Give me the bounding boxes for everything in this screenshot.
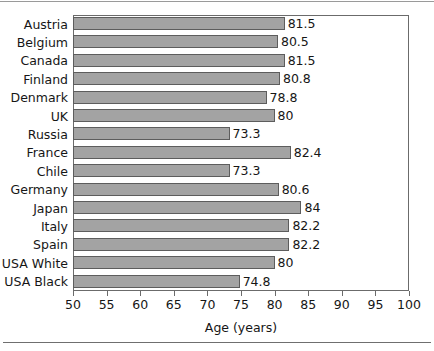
bar-canada[interactable] <box>73 54 285 67</box>
bar-row: 80.8 <box>73 70 409 88</box>
life-expectancy-bar-chart: 81.580.581.580.878.88073.382.473.380.684… <box>0 0 434 351</box>
bar-value-label: 82.2 <box>289 217 320 234</box>
x-tick <box>275 291 276 296</box>
x-tick <box>241 291 242 296</box>
category-label-usa-black: USA Black <box>4 273 68 290</box>
bar-russia[interactable] <box>73 127 230 140</box>
category-label-japan: Japan <box>33 200 68 217</box>
bar-row: 81.5 <box>73 15 409 33</box>
x-tick-label: 100 <box>389 297 429 313</box>
bar-value-label: 80 <box>275 254 294 271</box>
x-tick <box>107 291 108 296</box>
bar-row: 80 <box>73 254 409 272</box>
bar-belgium[interactable] <box>73 35 278 48</box>
x-tick <box>140 291 141 296</box>
bar-italy[interactable] <box>73 219 289 232</box>
bar-usa-white[interactable] <box>73 256 275 269</box>
bar-row: 73.3 <box>73 125 409 143</box>
bar-row: 82.4 <box>73 144 409 162</box>
bar-value-label: 82.2 <box>289 236 320 253</box>
bar-row: 82.2 <box>73 217 409 235</box>
bar-austria[interactable] <box>73 17 285 30</box>
x-tick <box>73 291 74 296</box>
bar-row: 80 <box>73 107 409 125</box>
bar-row: 74.8 <box>73 273 409 291</box>
bar-value-label: 78.8 <box>267 89 298 106</box>
category-label-russia: Russia <box>28 126 68 143</box>
category-label-germany: Germany <box>11 181 68 198</box>
x-tick <box>342 291 343 296</box>
category-label-canada: Canada <box>20 52 68 69</box>
x-axis-title: Age (years) <box>73 320 409 335</box>
bar-value-label: 82.4 <box>291 144 322 161</box>
bar-value-label: 80 <box>275 107 294 124</box>
bar-japan[interactable] <box>73 201 301 214</box>
bar-value-label: 80.8 <box>280 70 311 87</box>
category-label-spain: Spain <box>33 236 68 253</box>
bar-germany[interactable] <box>73 183 279 196</box>
x-tick <box>174 291 175 296</box>
bar-value-label: 84 <box>301 199 320 216</box>
category-label-chile: Chile <box>37 163 68 180</box>
bar-value-label: 80.6 <box>279 181 310 198</box>
x-tick <box>308 291 309 296</box>
bar-value-label: 74.8 <box>240 273 271 290</box>
category-label-usa-white: USA White <box>2 255 68 272</box>
bar-value-label: 81.5 <box>285 15 316 32</box>
bar-row: 84 <box>73 199 409 217</box>
bar-uk[interactable] <box>73 109 275 122</box>
bar-chile[interactable] <box>73 164 230 177</box>
bar-row: 81.5 <box>73 52 409 70</box>
x-tick <box>207 291 208 296</box>
bar-row: 82.2 <box>73 236 409 254</box>
bar-value-label: 81.5 <box>285 52 316 69</box>
category-label-france: France <box>26 144 68 161</box>
bar-spain[interactable] <box>73 238 289 251</box>
bar-value-label: 73.3 <box>230 125 261 142</box>
category-label-denmark: Denmark <box>11 89 68 106</box>
bar-value-label: 73.3 <box>230 162 261 179</box>
bar-row: 80.5 <box>73 33 409 51</box>
x-tick <box>409 291 410 296</box>
chart-page: 81.580.581.580.878.88073.382.473.380.684… <box>0 0 434 351</box>
category-label-belgium: Belgium <box>17 34 68 51</box>
bar-denmark[interactable] <box>73 91 267 104</box>
bottom-divider <box>3 342 431 343</box>
bar-finland[interactable] <box>73 72 280 85</box>
category-label-italy: Italy <box>41 218 68 235</box>
category-label-finland: Finland <box>23 71 68 88</box>
bar-row: 73.3 <box>73 162 409 180</box>
category-label-uk: UK <box>51 108 68 125</box>
category-label-austria: Austria <box>24 16 68 33</box>
bar-france[interactable] <box>73 146 291 159</box>
bar-usa-black[interactable] <box>73 275 240 288</box>
plot-area: 81.580.581.580.878.88073.382.473.380.684… <box>73 15 409 291</box>
bar-value-label: 80.5 <box>278 33 309 50</box>
x-tick <box>375 291 376 296</box>
bar-row: 80.6 <box>73 181 409 199</box>
bar-row: 78.8 <box>73 89 409 107</box>
